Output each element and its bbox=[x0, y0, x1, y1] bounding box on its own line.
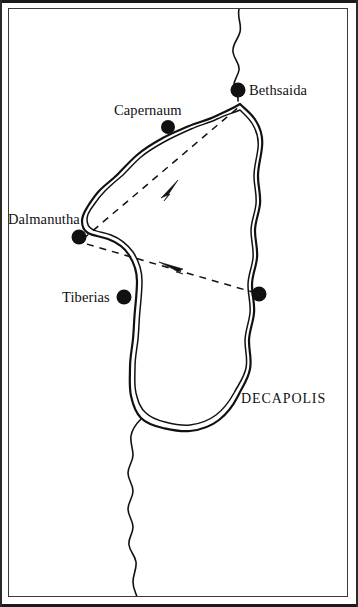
label-capernaum: Capernaum bbox=[114, 103, 182, 118]
map-figure: Bethsaida Capernaum Dalmanutha Tiberias … bbox=[0, 0, 358, 607]
label-dalmanutha: Dalmanutha bbox=[8, 212, 80, 227]
label-tiberias: Tiberias bbox=[62, 290, 110, 305]
marker-tiberias[interactable] bbox=[117, 290, 132, 305]
marker-dalmanutha[interactable] bbox=[72, 230, 87, 245]
marker-eastern-shore-site[interactable] bbox=[252, 287, 267, 302]
marker-bethsaida[interactable] bbox=[231, 83, 246, 98]
marker-capernaum[interactable] bbox=[161, 120, 175, 134]
label-bethsaida: Bethsaida bbox=[249, 83, 307, 98]
jordan-river-south-path bbox=[128, 419, 141, 597]
label-decapolis: DECAPOLIS bbox=[241, 392, 326, 406]
